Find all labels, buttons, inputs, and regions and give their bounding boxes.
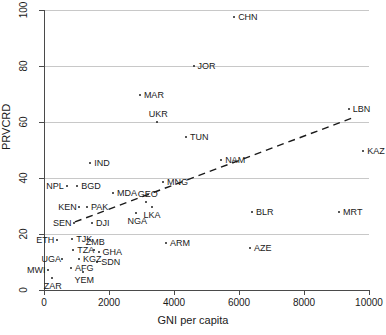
data-point-label: AFG — [75, 264, 94, 273]
data-point-label: YEM — [75, 276, 95, 285]
data-point-label: PAK — [91, 203, 108, 212]
data-point-label: JOR — [198, 62, 216, 71]
data-point-label: SDN — [101, 258, 120, 267]
data-point-label: KAZ — [367, 147, 385, 156]
data-point-label: CHN — [238, 13, 258, 22]
data-point-label: TUN — [190, 133, 209, 142]
data-point-label: MWI — [27, 266, 46, 275]
scatter-chart: 0200040006000800010000 020406080100 CHNJ… — [0, 0, 386, 335]
data-point-label: BLR — [256, 208, 274, 217]
data-point-label: GEO — [138, 190, 158, 199]
data-point[interactable] — [135, 212, 137, 214]
data-point[interactable] — [145, 201, 147, 203]
data-point-label: ZMB — [86, 238, 105, 247]
data-point[interactable] — [220, 159, 222, 161]
y-axis-title: PRVCRD — [0, 104, 12, 150]
data-point-label: MRT — [343, 208, 362, 217]
data-point[interactable] — [47, 269, 49, 271]
data-point-label: UKR — [149, 110, 168, 119]
data-point-label: DJI — [96, 219, 110, 228]
data-point-label: SEN — [53, 219, 72, 228]
data-point[interactable] — [165, 242, 167, 244]
data-point-label: KEN — [58, 203, 77, 212]
data-point-label: IND — [94, 159, 110, 168]
data-point-label: UGA — [41, 255, 61, 264]
data-point[interactable] — [89, 162, 91, 164]
data-point-label: AZE — [254, 244, 272, 253]
data-point[interactable] — [193, 65, 195, 67]
data-point-label: ETH — [36, 236, 54, 245]
data-point-label: ARM — [170, 239, 190, 248]
data-point[interactable] — [82, 271, 84, 273]
data-point-label: MAR — [144, 91, 164, 100]
data-point-label: ZAR — [44, 282, 62, 291]
data-point[interactable] — [73, 222, 75, 224]
data-point-label: GHA — [103, 248, 123, 257]
data-point-label: NAM — [225, 156, 245, 165]
data-point-label: LBN — [353, 105, 371, 114]
data-point-label: BGD — [81, 182, 101, 191]
data-point-label: NPL — [46, 182, 64, 191]
data-point-label: NGA — [128, 217, 148, 226]
data-point-label: MNG — [167, 178, 188, 187]
data-point-label: MDA — [117, 189, 137, 198]
data-point[interactable] — [98, 251, 100, 253]
data-point[interactable] — [91, 222, 93, 224]
x-axis-title: GNI per capita — [0, 314, 386, 326]
